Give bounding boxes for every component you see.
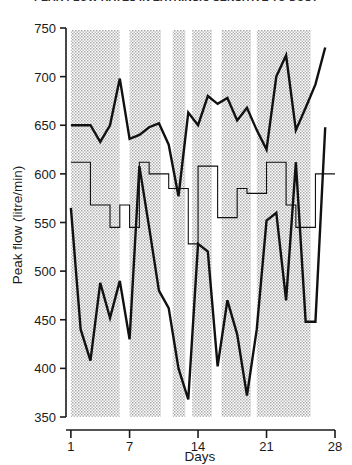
- x-axis-title: Days: [185, 449, 216, 464]
- shaded-band: [71, 30, 120, 417]
- y-tick-marks: [60, 28, 66, 417]
- x-tick-label: 1: [67, 439, 74, 454]
- peak-flow-line-chart: 350400450500550600650700750 17142128 Pea…: [0, 0, 352, 465]
- y-tick-label: 700: [34, 70, 56, 85]
- shaded-band: [222, 30, 251, 417]
- shaded-band: [192, 30, 212, 417]
- y-tick-label: 550: [34, 216, 56, 231]
- x-tick-marks: [71, 430, 335, 438]
- shaded-band: [257, 30, 311, 417]
- y-tick-label: 750: [34, 21, 56, 36]
- y-tick-label: 650: [34, 118, 56, 133]
- shaded-band: [173, 30, 186, 417]
- y-tick-label: 400: [34, 361, 56, 376]
- x-tick-label: 21: [259, 439, 273, 454]
- x-tick-label: 7: [126, 439, 133, 454]
- y-tick-label: 600: [34, 167, 56, 182]
- shaded-band: [130, 30, 161, 417]
- y-tick-labels: 350400450500550600650700750: [34, 21, 56, 425]
- y-tick-label: 350: [34, 410, 56, 425]
- y-tick-label: 450: [34, 313, 56, 328]
- y-axis-title: Peak flow (litre/min): [10, 166, 25, 285]
- chart-figure: PEAK FLOW RATES IN EXTRINSIC SENSITIVE T…: [0, 0, 352, 465]
- x-tick-label: 28: [328, 439, 342, 454]
- y-tick-label: 500: [34, 264, 56, 279]
